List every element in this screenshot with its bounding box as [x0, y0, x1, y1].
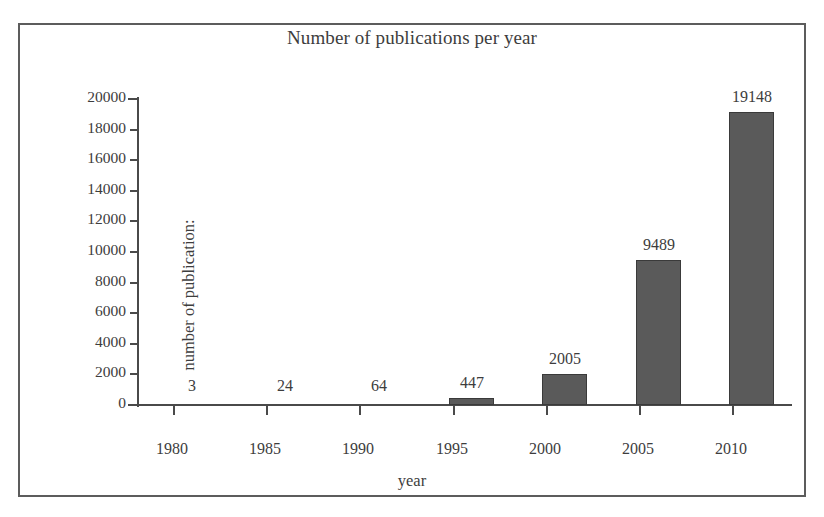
- bar-value-label-1990: 64: [334, 377, 424, 395]
- y-axis-tick-label: 10000: [56, 241, 126, 259]
- x-axis-tick: [546, 406, 548, 415]
- y-axis-tick-label: 8000: [56, 272, 126, 290]
- x-axis-tick-label: 2000: [510, 440, 580, 458]
- x-axis-tick-label: 2005: [603, 440, 673, 458]
- y-axis-tick: [130, 190, 137, 192]
- bar-value-label-1980: 3: [147, 377, 237, 395]
- bar-1995: [449, 398, 494, 405]
- y-axis-tick-label: 16000: [56, 149, 126, 167]
- y-axis-tick: [130, 343, 137, 345]
- bar-2010: [729, 112, 774, 405]
- y-axis-tick: [130, 220, 137, 222]
- x-axis-tick: [266, 406, 268, 415]
- y-axis-tick: [128, 404, 137, 406]
- y-axis-tick: [128, 98, 137, 100]
- x-axis-title: year: [0, 471, 824, 491]
- y-axis-tick-label-group: 2000018000160001400012000100008000600040…: [50, 0, 126, 517]
- y-axis-tick-label: 14000: [56, 180, 126, 198]
- x-axis-tick-label: 1995: [417, 440, 487, 458]
- x-axis-tick: [173, 406, 175, 415]
- y-axis-tick: [130, 282, 137, 284]
- x-axis-tick-label: 1990: [323, 440, 393, 458]
- bar-value-label-2010: 19148: [707, 88, 797, 106]
- bar-value-label-2000: 2005: [520, 350, 610, 368]
- y-axis-tick-label: 6000: [56, 302, 126, 320]
- y-axis-tick: [130, 312, 137, 314]
- y-axis-tick-label: 18000: [56, 119, 126, 137]
- bar-value-label-2005: 9489: [614, 236, 704, 254]
- x-axis-tick: [639, 406, 641, 415]
- y-axis-tick-label: 12000: [56, 210, 126, 228]
- x-axis-tick-label: 1980: [137, 440, 207, 458]
- x-axis-tick: [732, 406, 734, 415]
- y-axis-tick: [130, 129, 137, 131]
- y-axis-tick: [130, 159, 137, 161]
- x-axis-tick: [359, 406, 361, 415]
- y-axis-tick-label: 4000: [56, 333, 126, 351]
- x-axis-tick: [453, 406, 455, 415]
- x-axis-tick-label: 2010: [696, 440, 766, 458]
- x-axis-tick-label: 1985: [230, 440, 300, 458]
- bar-value-label-1985: 24: [240, 377, 330, 395]
- bar-2005: [636, 260, 681, 405]
- y-axis-tick-label: 20000: [56, 88, 126, 106]
- y-axis-tick-label: 0: [56, 394, 126, 412]
- bar-value-label-1995: 447: [427, 374, 517, 392]
- bar-2000: [542, 374, 587, 405]
- y-axis-tick-label: 2000: [56, 363, 126, 381]
- y-axis-tick: [130, 373, 137, 375]
- y-axis-tick: [130, 251, 137, 253]
